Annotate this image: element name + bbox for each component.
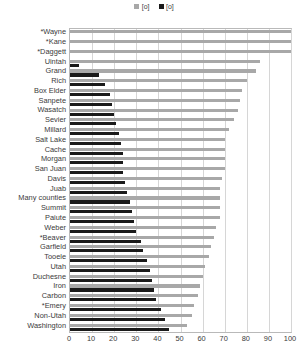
bar-gray[interactable] (70, 40, 291, 43)
y-axis-tick-label: Rich (0, 77, 66, 85)
chart-legend: [o] [o] (0, 3, 308, 10)
y-axis-tick-label: *Beaver (0, 234, 66, 242)
bar-black[interactable] (70, 200, 130, 203)
bar-row (70, 29, 291, 39)
x-axis-tick-label: 50 (175, 334, 183, 343)
bar-black[interactable] (70, 288, 154, 291)
bar-black[interactable] (70, 279, 152, 282)
bar-black[interactable] (70, 83, 105, 86)
bar-black[interactable] (70, 298, 156, 301)
bar-black[interactable] (70, 64, 79, 67)
bar-row (70, 215, 291, 225)
bar-gray[interactable] (70, 109, 238, 112)
y-axis-tick-label: Carbon (0, 292, 66, 300)
bar-gray[interactable] (70, 265, 205, 268)
bar-black[interactable] (70, 152, 123, 155)
bar-gray[interactable] (70, 50, 291, 53)
y-axis-tick-label: Iron (0, 282, 66, 290)
bar-row (70, 176, 291, 186)
bar-gray[interactable] (70, 255, 209, 258)
bar-black[interactable] (70, 113, 114, 116)
bar-black[interactable] (70, 249, 143, 252)
bar-gray[interactable] (70, 69, 256, 72)
bar-gray[interactable] (70, 206, 220, 209)
x-axis-tick-label: 80 (242, 334, 250, 343)
bar-row (70, 107, 291, 117)
bar-row (70, 78, 291, 88)
x-axis-tick-label: 30 (131, 334, 139, 343)
bar-black[interactable] (70, 210, 132, 213)
y-axis-tick-label: Juab (0, 185, 66, 193)
bar-black[interactable] (70, 220, 134, 223)
bar-gray[interactable] (70, 128, 229, 131)
bar-gray[interactable] (70, 30, 291, 33)
bar-black[interactable] (70, 171, 123, 174)
bar-row (70, 146, 291, 156)
y-axis-tick-label: Sanpete (0, 97, 66, 105)
bar-black[interactable] (70, 328, 169, 331)
bar-gray[interactable] (70, 138, 225, 141)
bar-gray[interactable] (70, 324, 187, 327)
bar-black[interactable] (70, 269, 150, 272)
y-axis-tick-label: Duchesne (0, 273, 66, 281)
bar-gray[interactable] (70, 157, 225, 160)
bar-row (70, 97, 291, 107)
y-axis-tick-label: *Kane (0, 38, 66, 46)
y-axis-tick-label: Washington (0, 322, 66, 330)
bar-gray[interactable] (70, 226, 216, 229)
legend-entry-0[interactable]: [o] (134, 3, 149, 10)
bar-black[interactable] (70, 191, 127, 194)
bar-gray[interactable] (70, 148, 225, 151)
bar-gray[interactable] (70, 245, 211, 248)
bar-row (70, 58, 291, 68)
bar-row (70, 234, 291, 244)
bar-row (70, 312, 291, 322)
y-axis-tick-label: Weber (0, 224, 66, 232)
bar-row (70, 39, 291, 49)
bar-row (70, 303, 291, 313)
bar-row (70, 322, 291, 332)
bar-gray[interactable] (70, 167, 225, 170)
bar-gray[interactable] (70, 196, 220, 199)
bar-black[interactable] (70, 161, 123, 164)
bar-row (70, 166, 291, 176)
bar-black[interactable] (70, 122, 116, 125)
bar-gray[interactable] (70, 236, 214, 239)
x-axis-tick-label: 70 (220, 334, 228, 343)
bar-gray[interactable] (70, 177, 222, 180)
bar-gray[interactable] (70, 304, 194, 307)
bar-gray[interactable] (70, 187, 220, 190)
bar-row (70, 156, 291, 166)
bar-gray[interactable] (70, 79, 247, 82)
bar-black[interactable] (70, 93, 110, 96)
bar-black[interactable] (70, 240, 141, 243)
bar-gray[interactable] (70, 294, 198, 297)
bar-black[interactable] (70, 181, 125, 184)
y-axis-tick-label: Sevier (0, 116, 66, 124)
bar-gray[interactable] (70, 118, 234, 121)
bar-row (70, 49, 291, 59)
bar-black[interactable] (70, 142, 121, 145)
legend-swatch-gray (134, 4, 139, 9)
bar-gray[interactable] (70, 275, 203, 278)
bar-gray[interactable] (70, 99, 240, 102)
bar-black[interactable] (70, 318, 165, 321)
bar-gray[interactable] (70, 60, 260, 63)
bar-black[interactable] (70, 230, 136, 233)
bar-black[interactable] (70, 73, 99, 76)
bar-gray[interactable] (70, 89, 242, 92)
bar-gray[interactable] (70, 314, 192, 317)
bar-rows (70, 29, 291, 332)
x-axis-tick-label: 10 (87, 334, 95, 343)
bar-gray[interactable] (70, 216, 220, 219)
bar-black[interactable] (70, 259, 147, 262)
bar-black[interactable] (70, 132, 119, 135)
bar-gray[interactable] (70, 284, 200, 287)
y-axis-tick-label: Many counties (0, 194, 66, 202)
bar-row (70, 68, 291, 78)
bar-black[interactable] (70, 308, 161, 311)
plot-area (69, 28, 292, 333)
bar-black[interactable] (70, 103, 112, 106)
y-axis-tick-label: *Emery (0, 302, 66, 310)
legend-entry-1[interactable]: [o] (159, 3, 174, 10)
